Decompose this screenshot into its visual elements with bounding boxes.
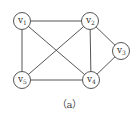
nodes: v1v2v3v4v5	[14, 13, 130, 89]
node-subscript: 2	[91, 19, 95, 26]
figure-caption: （a）	[0, 96, 139, 111]
node-subscript: 3	[122, 49, 126, 56]
edges	[22, 21, 121, 80]
node-subscript: 1	[23, 19, 27, 26]
node-subscript: 4	[92, 78, 96, 85]
node-subscript: 5	[23, 78, 27, 85]
node-v2: v2	[82, 13, 99, 30]
node-v4: v4	[83, 72, 100, 89]
node-v3: v3	[113, 43, 130, 60]
node-v5: v5	[14, 72, 31, 89]
node-v1: v1	[14, 13, 31, 30]
